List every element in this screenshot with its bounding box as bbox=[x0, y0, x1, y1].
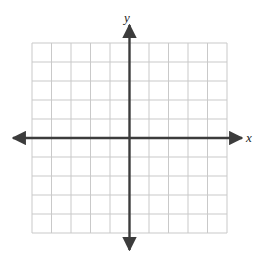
coordinate-plane-svg bbox=[0, 0, 266, 259]
y-axis-label: y bbox=[120, 11, 134, 24]
coordinate-plane-figure: y x bbox=[0, 0, 266, 259]
x-axis-label: x bbox=[246, 131, 260, 144]
